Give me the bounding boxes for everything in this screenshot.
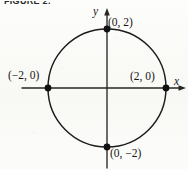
y-axis-label: y [93,6,98,18]
coordinate-plot [0,0,188,170]
label-point-right: (2, 0) [130,71,155,83]
point-left [45,85,52,92]
point-right [163,85,170,92]
label-point-left: (−2, 0) [8,70,39,82]
label-point-top: (0, 2) [108,17,133,29]
x-axis-label: x [174,76,179,88]
label-point-bottom: (0, −2) [110,148,141,160]
figure-panel: FIGURE 2. (0, 2) (−2, 0) (2, 0) (0, −2) … [0,0,188,170]
